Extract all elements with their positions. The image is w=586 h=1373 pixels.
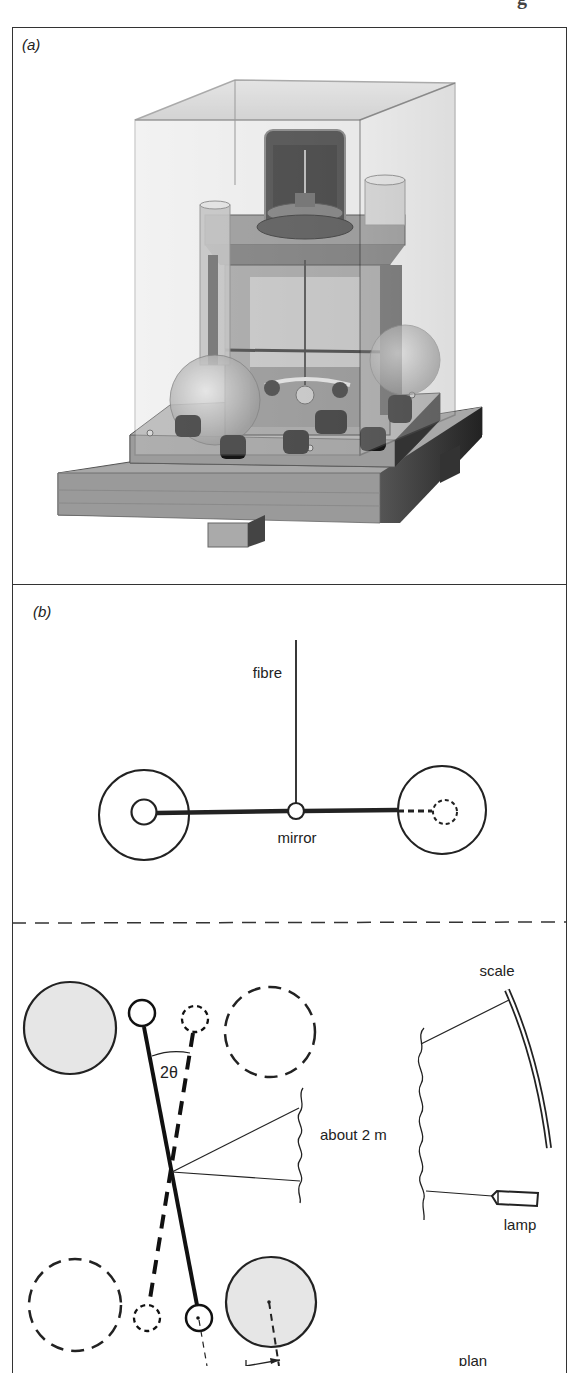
large-sphere-shaded-bottom xyxy=(226,1257,316,1347)
break-line xyxy=(298,1088,303,1203)
large-sphere-dashed-bottom xyxy=(29,1259,121,1351)
elevation-diagram: fibre mirror xyxy=(99,640,486,860)
light-ray-to-scale xyxy=(421,1000,509,1044)
small-sphere-right-hidden xyxy=(433,800,457,824)
plan-label: plan xyxy=(459,1352,487,1366)
angle-label: 2θ xyxy=(160,1064,178,1081)
mirror-icon xyxy=(288,803,304,819)
small-sphere-top-alternate xyxy=(182,1006,208,1032)
distance-label: about 2 m xyxy=(320,1126,387,1143)
panel-label-a: (a) xyxy=(22,36,40,53)
light-ray-incident xyxy=(172,1172,300,1181)
diagram-canvas: fibre mirror xyxy=(0,585,586,1366)
torsion-rod xyxy=(157,811,288,813)
small-sphere-top xyxy=(129,1000,155,1026)
scale-bar xyxy=(507,990,549,1148)
torsion-rod xyxy=(304,810,398,811)
light-ray-reflected xyxy=(172,1108,299,1172)
small-sphere-left xyxy=(132,800,157,825)
plan-diagram: 2θ about 2 m scale lamp plan xyxy=(24,962,549,1366)
page-header-fragment: g xyxy=(517,0,527,9)
large-sphere-dashed-top xyxy=(225,987,315,1077)
torsion-balance-photo xyxy=(40,55,520,555)
angle-arc xyxy=(152,1052,190,1056)
sphere-centre-dot xyxy=(196,1316,200,1320)
section-divider-dashed xyxy=(12,922,566,923)
lamp-label: lamp xyxy=(504,1216,537,1233)
scale-label: scale xyxy=(479,962,514,979)
small-sphere-bottom-alternate xyxy=(134,1305,160,1331)
fibre-label: fibre xyxy=(253,664,282,681)
break-line xyxy=(418,1028,424,1220)
mirror-label: mirror xyxy=(277,829,316,846)
light-ray-from-lamp xyxy=(426,1191,492,1196)
large-sphere-shaded-top xyxy=(24,982,116,1074)
lamp-icon xyxy=(492,1191,538,1206)
